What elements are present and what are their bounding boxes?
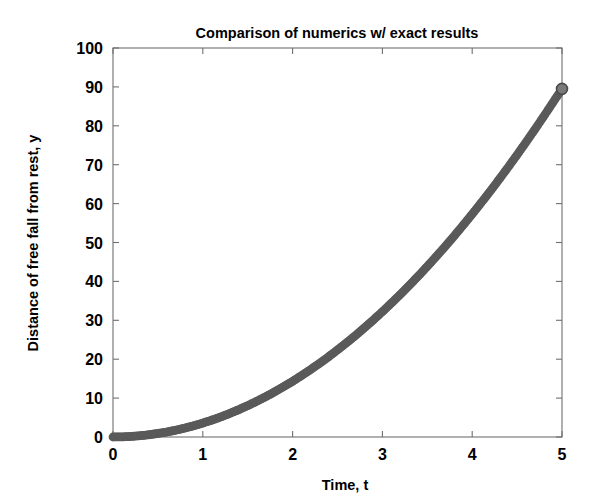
y-tick-label: 50 bbox=[85, 235, 103, 252]
y-tick-label: 100 bbox=[76, 40, 103, 57]
x-tick-label: 1 bbox=[198, 446, 207, 463]
y-tick-label: 20 bbox=[85, 351, 103, 368]
x-tick-label: 4 bbox=[468, 446, 477, 463]
curve-endpoint-marker bbox=[557, 83, 568, 94]
y-axis-label: Distance of free fall from rest, y bbox=[25, 135, 41, 352]
x-tick-label: 0 bbox=[109, 446, 118, 463]
plot-area-background bbox=[113, 48, 562, 437]
x-tick-label: 5 bbox=[558, 446, 567, 463]
y-tick-label: 40 bbox=[85, 273, 103, 290]
x-tick-labels: 012345 bbox=[109, 446, 567, 463]
y-tick-label: 0 bbox=[94, 429, 103, 446]
free-fall-chart: 012345 0102030405060708090100 Comparison… bbox=[0, 0, 598, 501]
y-tick-label: 60 bbox=[85, 196, 103, 213]
x-tick-label: 3 bbox=[378, 446, 387, 463]
y-tick-label: 10 bbox=[85, 390, 103, 407]
chart-title: Comparison of numerics w/ exact results bbox=[196, 25, 479, 41]
y-tick-label: 30 bbox=[85, 312, 103, 329]
figure-canvas: 012345 0102030405060708090100 Comparison… bbox=[0, 0, 598, 501]
x-axis-label: Time, t bbox=[322, 477, 369, 493]
y-tick-label: 70 bbox=[85, 157, 103, 174]
y-tick-label: 80 bbox=[85, 118, 103, 135]
y-tick-label: 90 bbox=[85, 79, 103, 96]
x-tick-label: 2 bbox=[288, 446, 297, 463]
y-tick-labels: 0102030405060708090100 bbox=[76, 40, 103, 446]
